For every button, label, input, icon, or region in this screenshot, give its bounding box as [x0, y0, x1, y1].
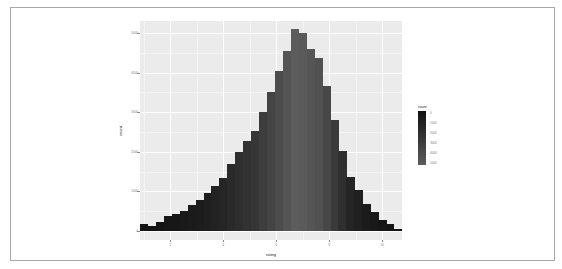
grid-line-major-y [140, 33, 402, 34]
x-tick-mark [170, 240, 171, 242]
legend-colorbar [418, 111, 426, 165]
y-tick-mark [137, 112, 140, 113]
x-tick-label: 4 [223, 243, 225, 247]
grid-line-major-x [170, 21, 171, 240]
x-tick-mark [382, 240, 383, 242]
x-tick-label: 2 [170, 243, 172, 247]
plot-panel [140, 21, 402, 240]
legend-label: 4000 [430, 151, 437, 155]
x-tick-label: 10 [380, 243, 383, 247]
y-tick-mark [137, 231, 140, 232]
y-tick-mark [137, 33, 140, 34]
x-tick-mark [223, 240, 224, 242]
y-tick-mark [137, 191, 140, 192]
histogram-bar [394, 229, 402, 231]
x-tick-mark [276, 240, 277, 242]
legend-label: 2000 [430, 131, 437, 135]
x-tick-mark [329, 240, 330, 242]
legend-label: 5000 [430, 161, 437, 165]
legend-label: 1000 [430, 121, 437, 125]
y-tick-mark [137, 152, 140, 153]
grid-line-major-x [382, 21, 383, 240]
grid-line-major-y [140, 73, 402, 74]
legend-label: 0 [430, 111, 432, 115]
y-tick-mark [137, 73, 140, 74]
grid-line-minor-x [144, 21, 145, 240]
x-tick-label: 6 [275, 243, 277, 247]
legend-title: count [418, 105, 427, 109]
grid-line-minor-y [140, 53, 402, 54]
x-tick-label: 8 [328, 243, 330, 247]
y-axis-label: count [118, 126, 123, 136]
x-axis-label: rating [266, 252, 276, 257]
legend-label: 3000 [430, 141, 437, 145]
grid-line-major-y [140, 231, 402, 232]
